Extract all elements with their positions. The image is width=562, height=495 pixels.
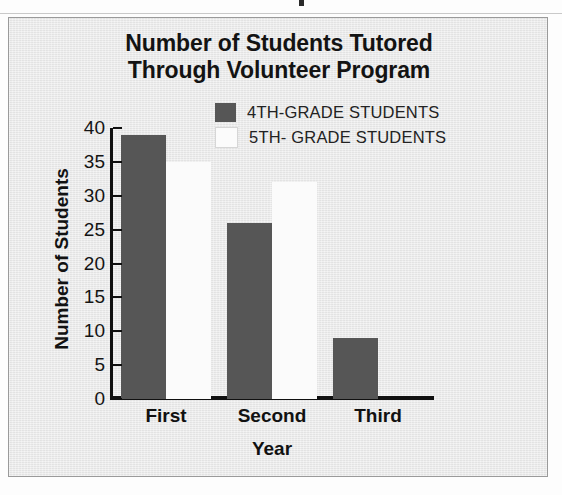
y-axis-tick-labels: 4035302520151050 xyxy=(65,128,105,398)
y-axis-tick-label: 25 xyxy=(65,219,105,241)
y-axis-tick-label: 40 xyxy=(65,117,105,139)
page-edge-rule xyxy=(0,13,562,14)
y-axis-tick-mark xyxy=(113,161,122,163)
plot-area: Number of Students 4035302520151050 Firs… xyxy=(9,18,549,478)
bar xyxy=(227,223,272,399)
y-axis-tick-mark xyxy=(113,364,122,366)
y-axis-tick-mark xyxy=(113,296,122,298)
page-scan-artifact xyxy=(299,0,304,6)
legend-label-4th-grade: 4TH-GRADE STUDENTS xyxy=(247,103,439,122)
bar xyxy=(166,162,211,399)
bar-group xyxy=(121,128,211,399)
bar-group xyxy=(333,128,423,399)
legend-item-5th-grade: 5TH- GRADE STUDENTS xyxy=(215,125,446,150)
bar xyxy=(333,338,378,399)
legend-swatch-4th-grade xyxy=(215,103,236,122)
x-axis-tick-label: Second xyxy=(238,405,307,427)
x-axis-tick-labels: FirstSecondThird xyxy=(113,405,431,431)
chart-title: Number of Students Tutored Through Volun… xyxy=(9,30,549,84)
x-axis-tick-label: First xyxy=(145,405,186,427)
legend-item-4th-grade: 4TH-GRADE STUDENTS xyxy=(215,100,446,125)
y-axis-tick-label: 0 xyxy=(65,388,105,410)
bar-series-container xyxy=(113,128,431,399)
chart-legend: 4TH-GRADE STUDENTS 5TH- GRADE STUDENTS xyxy=(215,100,446,150)
y-axis-tick-label: 30 xyxy=(65,185,105,207)
y-axis-tick-mark xyxy=(113,229,122,231)
y-axis-tick-label: 10 xyxy=(65,320,105,342)
bar xyxy=(121,135,166,399)
y-axis-tick-mark xyxy=(113,398,122,400)
chart-title-line-1: Number of Students Tutored xyxy=(9,30,549,57)
y-axis-tick-label: 35 xyxy=(65,151,105,173)
chart-title-line-2: Through Volunteer Program xyxy=(9,57,549,84)
x-axis-tick-label: Third xyxy=(354,405,402,427)
chart-figure: Number of Students Tutored Through Volun… xyxy=(8,17,548,477)
bar xyxy=(272,182,317,399)
legend-label-5th-grade: 5TH- GRADE STUDENTS xyxy=(249,128,446,147)
bar-group xyxy=(227,128,317,399)
x-axis-title: Year xyxy=(113,438,431,460)
y-axis-tick-mark xyxy=(113,330,122,332)
y-axis-tick-mark xyxy=(113,195,122,197)
y-axis-tick-label: 5 xyxy=(65,354,105,376)
y-axis-tick-label: 20 xyxy=(65,253,105,275)
y-axis-tick-label: 15 xyxy=(65,286,105,308)
y-axis-tick-mark xyxy=(113,263,122,265)
y-axis-tick-mark xyxy=(113,127,122,129)
legend-swatch-5th-grade xyxy=(215,127,238,148)
